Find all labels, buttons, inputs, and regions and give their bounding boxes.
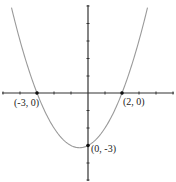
label-y-intercept: (0, -3) [91,143,116,155]
point-left-root [35,91,39,95]
point-right-root [120,91,124,95]
graph: (-3, 0) (2, 0) (0, -3) [0,0,176,182]
label-left-root: (-3, 0) [14,97,39,109]
label-right-root: (2, 0) [123,96,145,108]
point-y-intercept [86,144,90,148]
parabola-curve [12,8,148,148]
